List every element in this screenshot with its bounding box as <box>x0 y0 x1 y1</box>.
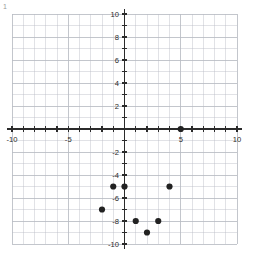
data-point <box>110 183 116 189</box>
x-tick-label--10: -10 <box>7 135 18 144</box>
y-tick-label--8: -8 <box>112 217 119 226</box>
data-point <box>178 126 184 132</box>
y-tick-label-10: 10 <box>111 10 119 19</box>
y-tick-label--2: -2 <box>112 148 119 157</box>
x-tick-label--5: -5 <box>65 135 72 144</box>
y-tick-label--4: -4 <box>112 171 119 180</box>
y-tick-label-2: 2 <box>115 102 119 111</box>
data-point <box>133 218 139 224</box>
y-tick-label--6: -6 <box>112 194 119 203</box>
data-point <box>155 218 161 224</box>
x-tick-label-5: 5 <box>179 135 183 144</box>
data-point <box>121 183 127 189</box>
scatter-plot-figure: -10-5510-10-8-6-4-2246810 1 <box>0 0 257 256</box>
data-point <box>99 206 105 212</box>
corner-mark: 1 <box>3 3 7 10</box>
y-tick-label-6: 6 <box>115 56 119 65</box>
data-point <box>144 229 150 235</box>
coordinate-plane-svg: -10-5510-10-8-6-4-2246810 1 <box>0 0 257 256</box>
x-tick-label-10: 10 <box>233 135 241 144</box>
y-tick-label--10: -10 <box>108 240 119 249</box>
data-point <box>166 183 172 189</box>
y-tick-label-8: 8 <box>115 33 119 42</box>
y-tick-label-4: 4 <box>115 79 119 88</box>
plot-background <box>0 0 257 256</box>
